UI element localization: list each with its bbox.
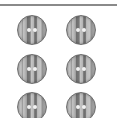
button-image-3 [17,54,47,84]
button-image-4 [66,54,96,84]
button-hole-icon [82,28,86,32]
button-hole-icon [33,67,37,71]
button-hole-icon [27,28,31,32]
button-hole-icon [27,67,31,71]
button-hole-icon [76,28,80,32]
button-hole-icon [82,67,86,71]
button-image-6 [66,92,96,118]
button-hole-icon [27,105,31,109]
top-divider-line [0,4,117,6]
button-hole-icon [33,105,37,109]
button-hole-icon [82,105,86,109]
button-image-1 [17,15,47,45]
button-image-2 [66,15,96,45]
button-hole-icon [33,28,37,32]
button-image-5 [17,92,47,118]
button-hole-icon [76,105,80,109]
button-hole-icon [76,67,80,71]
